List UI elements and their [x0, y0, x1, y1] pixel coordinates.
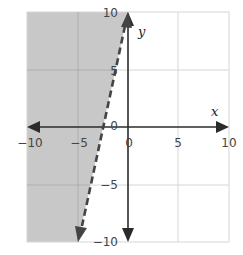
tick-y-10: 10: [103, 6, 118, 20]
tick-x-neg5: −5: [70, 136, 88, 150]
tick-y-neg5: −5: [100, 178, 118, 192]
tick-x-5: 5: [174, 136, 182, 150]
tick-y-neg10: −10: [93, 235, 118, 249]
tick-x-0: 0: [125, 136, 133, 150]
tick-y-0: 0: [110, 119, 118, 133]
x-axis-label: x: [211, 104, 219, 119]
y-axis-down-arrow-icon: [122, 228, 134, 242]
coordinate-plane: −10 −5 0 5 10 10 5 0 −5 −10 x y: [0, 0, 243, 255]
x-axis-right-arrow-icon: [216, 121, 229, 133]
y-axis-label: y: [137, 24, 146, 39]
tick-x-10: 10: [221, 136, 236, 150]
tick-y-5: 5: [110, 64, 118, 78]
tick-x-neg10: −10: [17, 136, 42, 150]
